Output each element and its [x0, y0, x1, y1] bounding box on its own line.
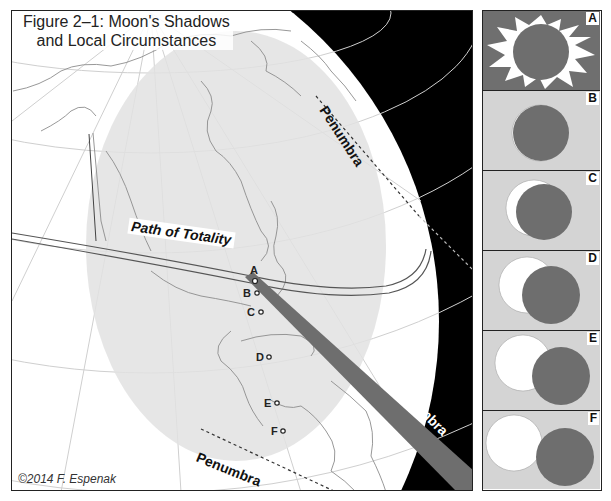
location-marker-f — [281, 429, 285, 433]
phase-panel-d: D — [483, 251, 600, 331]
location-label-c: C — [247, 306, 255, 318]
figure-title: Figure 2–1: Moon's Shadows and Local Cir… — [20, 12, 233, 50]
location-label-f: F — [271, 425, 278, 437]
globe-map — [12, 11, 473, 491]
corona-icon — [483, 11, 600, 91]
phase-panel-c: C — [483, 171, 600, 251]
phase-panel-b: B — [483, 91, 600, 171]
location-marker-a — [253, 279, 258, 284]
panel-letter-c: C — [586, 172, 599, 185]
copyright-notice: ©2014 F. Espenak — [18, 472, 116, 486]
eclipse-phase-icon — [483, 171, 600, 251]
figure-title-line2: and Local Circumstances — [23, 31, 230, 50]
panel-letter-e: E — [587, 332, 599, 345]
panel-letter-a: A — [586, 12, 599, 25]
eclipse-phase-icon — [483, 331, 600, 411]
panel-letter-b: B — [586, 92, 599, 105]
penumbra-region — [86, 31, 386, 461]
location-marker-b — [255, 291, 259, 295]
phase-panel-a: A — [483, 11, 600, 91]
location-label-b: B — [243, 287, 251, 299]
figure-title-line1: Figure 2–1: Moon's Shadows — [23, 12, 230, 31]
map-frame: Figure 2–1: Moon's Shadows and Local Cir… — [11, 10, 473, 491]
location-marker-c — [259, 310, 263, 314]
panel-letter-f: F — [588, 412, 599, 425]
phase-panel-f: F — [483, 411, 600, 489]
eclipse-phase-icon — [483, 411, 600, 489]
eclipse-phases-panel: A B C D E F — [482, 10, 602, 491]
location-marker-d — [267, 355, 271, 359]
location-label-e: E — [264, 397, 271, 409]
panel-letter-d: D — [586, 252, 599, 265]
eclipse-phase-icon — [483, 91, 600, 171]
location-label-d: D — [256, 351, 264, 363]
location-label-a: A — [250, 264, 258, 276]
phase-panel-e: E — [483, 331, 600, 411]
eclipse-phase-icon — [483, 251, 600, 331]
location-marker-e — [275, 401, 279, 405]
